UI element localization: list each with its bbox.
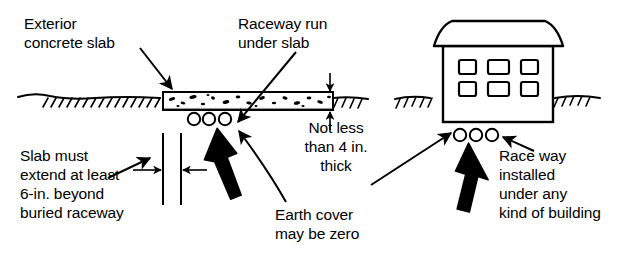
leader-earth-cover (239, 131, 286, 202)
concrete-slab (163, 92, 333, 110)
grade-line-left (18, 94, 160, 107)
raceway-slab-diagram: Exterior concrete slab Raceway run under… (0, 0, 618, 258)
bold-pointer-arrow-left (201, 127, 241, 202)
leader-raceway-run (238, 52, 296, 122)
label-earth-cover-may-be-zero: Earth cover may be zero (275, 205, 359, 243)
label-raceway-installed-under-building: Race way installed under any kind of bui… (499, 146, 601, 222)
label-exterior-concrete-slab: Exterior concrete slab (24, 14, 115, 52)
label-raceway-run-under-slab: Raceway run under slab (238, 14, 327, 52)
grade-line-left-right-side (333, 97, 368, 108)
raceway-conduits-under-building (454, 129, 498, 141)
building-outline (434, 21, 563, 122)
label-slab-must-extend: Slab must extend at least 6-in. beyond b… (20, 146, 124, 222)
leader-exterior-slab (140, 48, 172, 89)
six-inch-extension-dimension (133, 133, 207, 205)
bold-pointer-arrow-right (453, 142, 491, 213)
buried-raceway-conduits (188, 113, 231, 125)
label-not-less-than-4in-thick: Not less than 4 in. thick (288, 118, 384, 175)
